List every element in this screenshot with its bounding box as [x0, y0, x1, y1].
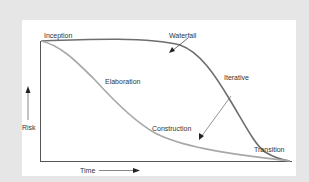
- time-arrow-right-icon: [133, 168, 140, 173]
- axis-label-risk: Risk: [22, 124, 36, 131]
- axis-label-time: Time: [80, 167, 95, 174]
- label-elaboration: Elaboration: [105, 78, 140, 85]
- risk-time-chart: [0, 0, 309, 182]
- label-waterfall: Waterfall: [169, 32, 196, 39]
- risk-arrow-up-icon: [26, 86, 31, 93]
- waterfall-curve: [41, 39, 290, 161]
- waterfall-arrowhead-icon: [169, 47, 175, 53]
- label-iterative: Iterative: [224, 74, 249, 81]
- iterative-curve: [41, 41, 290, 161]
- iterative-pointer: [201, 96, 231, 137]
- label-transition: Transition: [254, 146, 284, 153]
- label-inception: Inception: [44, 32, 72, 39]
- label-construction: Construction: [152, 125, 191, 132]
